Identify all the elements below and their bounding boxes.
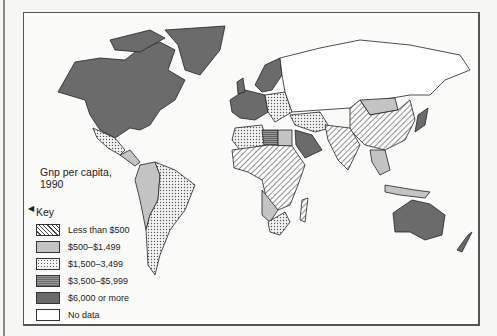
- legend-item: $500–$1,499: [36, 238, 130, 255]
- region-japan: [415, 108, 428, 132]
- region-uk: [237, 78, 245, 94]
- legend-item: $1,500–3,499: [36, 255, 130, 272]
- region-libya: [262, 130, 278, 146]
- legend-item: $3,500–$5,999: [36, 272, 130, 289]
- region-southeast-asia: [370, 150, 390, 175]
- legend-swatch-dotted: [36, 258, 60, 270]
- legend-label: $6,000 or more: [68, 293, 129, 303]
- pointer-icon: ◀: [28, 204, 34, 213]
- key-title: Key: [36, 206, 54, 218]
- map-title: Gnp per capita, 1990: [40, 166, 112, 190]
- legend-swatch-hatch: [36, 224, 60, 236]
- region-western-europe: [230, 90, 268, 120]
- legend-label: $500–$1,499: [68, 242, 121, 252]
- region-north-america: [58, 42, 185, 138]
- legend-swatch-light: [36, 241, 60, 253]
- legend-label: No data: [68, 310, 100, 320]
- legend-label: $3,500–$5,999: [68, 276, 128, 286]
- region-australia: [393, 200, 445, 240]
- legend-swatch-dark: [36, 292, 60, 304]
- region-egypt: [278, 130, 292, 146]
- region-madagascar: [300, 198, 308, 222]
- legend-item: Less than $500: [36, 221, 130, 238]
- legend-swatch-none: [36, 309, 60, 321]
- region-indonesia: [385, 185, 430, 198]
- title-line-2: 1990: [40, 178, 112, 190]
- region-new-zealand: [457, 232, 472, 252]
- region-saudi-arabia: [295, 130, 322, 158]
- legend-label: Less than $500: [68, 225, 130, 235]
- legend-item: $6,000 or more: [36, 289, 130, 306]
- legend-label: $1,500–3,499: [68, 259, 123, 269]
- legend-item: No data: [36, 306, 130, 323]
- legend: Less than $500 $500–$1,499 $1,500–3,499 …: [36, 221, 130, 323]
- region-turkey-iran: [290, 112, 330, 132]
- region-scandinavia: [255, 58, 282, 92]
- legend-swatch-stripe: [36, 275, 60, 287]
- title-line-1: Gnp per capita,: [40, 166, 112, 178]
